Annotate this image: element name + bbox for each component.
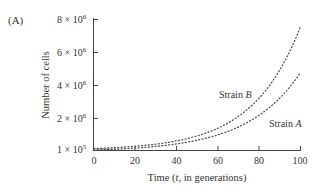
x-axis-title: Time (t, in generations) (148, 172, 247, 184)
y-axis-title: Number of cells (40, 51, 51, 119)
x-tick-labels: 0 20 40 60 80 100 (92, 155, 308, 166)
chart: (A) 8 × 106 6 × 106 4 × 106 2 × 106 1 × … (0, 0, 324, 195)
svg-text:80: 80 (254, 155, 264, 166)
svg-text:40: 40 (172, 155, 182, 166)
svg-text:6 × 106: 6 × 106 (57, 46, 87, 58)
strain-b-curve (94, 28, 300, 149)
svg-text:0: 0 (92, 155, 97, 166)
strain-a-curve (94, 73, 300, 150)
svg-text:1 × 105: 1 × 105 (57, 143, 87, 155)
svg-text:60: 60 (213, 155, 223, 166)
svg-text:4 × 106: 4 × 106 (57, 79, 87, 91)
strain-b-label: Strain B (219, 89, 252, 100)
svg-text:100: 100 (293, 155, 308, 166)
svg-text:2 × 106: 2 × 106 (57, 112, 87, 124)
svg-text:8 × 106: 8 × 106 (57, 13, 87, 25)
panel-label: (A) (8, 14, 24, 27)
strain-a-label: Strain A (269, 118, 302, 129)
svg-text:20: 20 (130, 155, 140, 166)
y-tick-labels: 8 × 106 6 × 106 4 × 106 2 × 106 1 × 105 (57, 13, 87, 155)
